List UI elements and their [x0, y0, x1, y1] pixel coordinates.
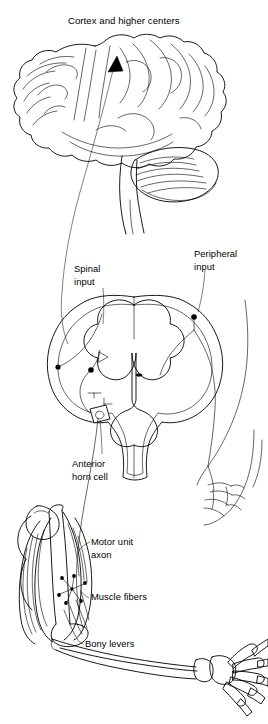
- phalanx-ring: [248, 688, 265, 704]
- anatomy-figure: Cortex and higher centers: [0, 0, 268, 724]
- sulcus-frontal-5: [27, 97, 50, 113]
- carpal-row-distal: [210, 656, 236, 685]
- sulcus-occipital-2: [189, 54, 203, 112]
- postcentral-gyrus: [99, 46, 110, 118]
- cerebellar-folia-3: [136, 168, 199, 175]
- cerebellar-folia-2: [137, 162, 196, 169]
- brainstem-left: [120, 156, 126, 234]
- spinal-input-label-line1: Spinal: [74, 263, 100, 274]
- humerus-shaft-right: [62, 510, 70, 624]
- forearm-proximal-joint: [51, 639, 56, 650]
- central-sulcus: [74, 48, 86, 120]
- anterior-horn-cell-leader: [100, 420, 102, 454]
- gyrus-arc-2: [38, 85, 67, 99]
- label-motor-unit-axon: Motor unit axon: [79, 536, 134, 560]
- phalanx-middle: [257, 676, 268, 686]
- label-anterior-horn-cell: Anterior horn cell: [72, 458, 108, 482]
- muscle-fiber-endplate-4: [57, 593, 61, 597]
- label-muscle-fibers: Muscle fibers: [80, 590, 147, 602]
- motor-unit-star: [57, 574, 87, 605]
- interneuron-axon-lateral: [58, 314, 102, 367]
- peripheral-nerve-trunk: [197, 300, 248, 485]
- sylvian-fissure: [62, 132, 172, 148]
- sensory-ending-6: [226, 487, 228, 506]
- peripheral-input-label-line1: Peripheral: [194, 248, 237, 259]
- muscle-fibers-label: Muscle fibers: [91, 591, 147, 602]
- metacarpal-5: [223, 682, 246, 706]
- figure-title: Cortex and higher centers: [68, 15, 180, 26]
- motor-unit-axon-label-line1: Motor unit: [91, 536, 134, 547]
- cerebellum-outline: [131, 148, 218, 202]
- muscle-fiber-endplate-1: [60, 576, 64, 580]
- phalanx-little: [237, 699, 252, 716]
- motor-branch-2: [72, 577, 74, 589]
- tract-arrowhead: [108, 56, 123, 72]
- dorsal-root-group: [160, 270, 215, 466]
- gyrus-temporal-arc: [118, 114, 154, 140]
- peripheral-nerve-trunk-2: [208, 466, 214, 490]
- interneuron-axon-medial: [91, 350, 100, 370]
- synaptic-terminal-triangle: [99, 352, 108, 362]
- precentral-gyrus: [84, 50, 96, 121]
- anterior-horn-cell-label-line2: horn cell: [72, 471, 108, 482]
- brainstem-right: [136, 160, 144, 233]
- gyrus-arc-1: [46, 65, 77, 79]
- bony-levers-label: Bony levers: [85, 638, 135, 649]
- peripheral-nerve-group: [197, 300, 262, 525]
- sulcus-occipital-1: [171, 44, 191, 109]
- synapse-bracket-upper: [88, 393, 101, 398]
- label-spinal-input: Spinal input: [74, 263, 100, 287]
- humeral-head-detail: [34, 511, 48, 513]
- brainstem-medial-line: [130, 200, 133, 234]
- motor-unit-axon-label-line2: axon: [91, 549, 112, 560]
- interneuron-group: [55, 314, 112, 423]
- skin-contour-inner: [253, 440, 262, 487]
- spinal-input-label-line2: input: [74, 276, 95, 287]
- muscle-fiber-endplate-6: [79, 599, 83, 603]
- drg-central-branch: [160, 330, 194, 375]
- label-peripheral-input: Peripheral input: [194, 248, 237, 272]
- gyrus-temporal-arc-2: [96, 126, 126, 131]
- deep-muscle-outline-left: [63, 512, 81, 640]
- metacarpal-1: [228, 644, 257, 668]
- cerebral-cortex-outline: [14, 34, 226, 167]
- anterior-horn-cell-label-line1: Anterior: [72, 458, 105, 469]
- label-bony-levers: Bony levers: [77, 638, 135, 649]
- cerebellar-folia-1: [140, 157, 194, 163]
- spinal-cord-outline: [47, 295, 222, 480]
- cerebellar-folia-6: [148, 188, 206, 193]
- sulcus-parietal-2: [133, 44, 149, 107]
- spinal-cord-group: [47, 295, 222, 480]
- descending-tract-line: [61, 70, 113, 344]
- cerebellar-folia-5: [141, 181, 206, 187]
- muscle-fiber-endplate-2: [72, 574, 76, 578]
- peripheral-input-leader: [198, 270, 205, 312]
- gyrus-arc-3: [44, 106, 65, 114]
- sensory-ending-4: [204, 508, 224, 516]
- muscle-fiber-endplate-5: [64, 601, 68, 605]
- drg-peripheral-branch: [194, 330, 215, 466]
- temporal-lobe-line: [70, 142, 173, 156]
- radius-upper-border: [60, 648, 197, 671]
- interneuron-dendrite: [80, 370, 91, 413]
- white-matter-inner-contour: [58, 304, 212, 475]
- humerus-proximal-cap: [49, 505, 63, 512]
- motor-branch-6: [72, 589, 80, 600]
- sulcus-frontal-2: [27, 63, 66, 76]
- muscle-fiber-endplate-3: [83, 581, 87, 585]
- peripheral-input-label-line2: input: [194, 261, 215, 272]
- deep-fiber-1: [68, 524, 79, 576]
- sulcus-parietal-3: [150, 40, 171, 109]
- metacarpal-3: [233, 671, 264, 683]
- anterior-horn-leader-group: [100, 420, 102, 454]
- central-canal: [136, 374, 142, 377]
- cerebellar-folia-4: [137, 174, 203, 181]
- sulcus-occipital-3: [205, 66, 214, 116]
- scapula-contour: [21, 559, 32, 610]
- sulcus-parietal-1: [120, 48, 130, 103]
- gyrus-occipital-arc: [180, 118, 201, 129]
- motor-branch-3: [72, 584, 84, 589]
- humerus-shaft-left: [49, 512, 56, 624]
- biceps-fiber-2: [32, 534, 41, 630]
- arm-group: [18, 505, 268, 716]
